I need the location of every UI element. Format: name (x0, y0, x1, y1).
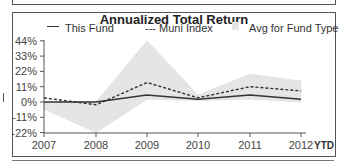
x-tick-label: 2011 (238, 139, 262, 151)
y-tick-label: 22% (15, 65, 37, 77)
x-tick-label: 2012 (289, 139, 313, 151)
y-tick-label: 0% (21, 96, 37, 108)
y-tick-label: -22% (11, 127, 37, 139)
y-tick-label: -11% (12, 111, 37, 123)
x-tick-label: 2007 (32, 139, 56, 151)
x-tick-label: 2008 (84, 139, 108, 151)
avg-fund-type-area (44, 41, 301, 133)
ytd-label: YTD (314, 140, 334, 151)
y-tick-label: 11% (16, 81, 37, 93)
y-tick-label: 33% (15, 50, 37, 62)
plot-area: 44%33%22%11%0%-11%-22%200720082009201020… (0, 0, 348, 165)
x-tick-label: 2010 (186, 139, 210, 151)
y-tick-label: 44% (15, 35, 37, 47)
x-tick-label: 2009 (135, 139, 159, 151)
